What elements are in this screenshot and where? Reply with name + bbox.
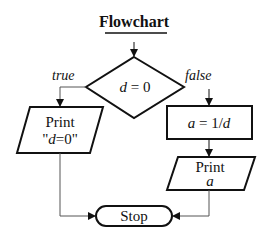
print-d-zero-line1: Print xyxy=(45,114,75,130)
stop-label: Stop xyxy=(120,208,148,224)
decision-condition: d = 0 xyxy=(120,79,151,95)
flowchart-diagram: Flowchart d = 0 true false Print "d=0" a… xyxy=(0,0,265,238)
true-label: true xyxy=(52,68,75,83)
true-connector xyxy=(60,87,86,106)
assign-a-text: a = 1/d xyxy=(188,115,231,131)
print-a-line2: a xyxy=(206,173,214,189)
false-label: false xyxy=(185,68,211,83)
right-to-stop-connector xyxy=(173,190,209,216)
print-d-zero-line2: "d=0" xyxy=(42,131,78,147)
flowchart-title: Flowchart xyxy=(99,13,170,30)
left-to-stop-connector xyxy=(60,153,95,216)
